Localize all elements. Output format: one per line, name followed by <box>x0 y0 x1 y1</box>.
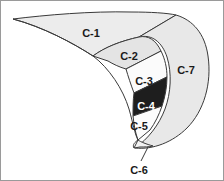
region-label-c-3: C-3 <box>135 75 153 87</box>
leader-line-c-6 <box>141 147 148 161</box>
region-label-c-7: C-7 <box>177 64 195 76</box>
region-label-c-2: C-2 <box>120 50 138 62</box>
region-label-c-4: C-4 <box>137 100 156 112</box>
diagram-svg: C-1 C-2 C-3 C-4 C-5 C-6 C-7 <box>1 1 224 181</box>
figure-container: C-1 C-2 C-3 C-4 C-5 C-6 C-7 <box>0 0 224 181</box>
region-label-c-1: C-1 <box>82 27 100 39</box>
region-label-c-5: C-5 <box>130 120 148 132</box>
region-label-c-6: C-6 <box>130 164 148 176</box>
